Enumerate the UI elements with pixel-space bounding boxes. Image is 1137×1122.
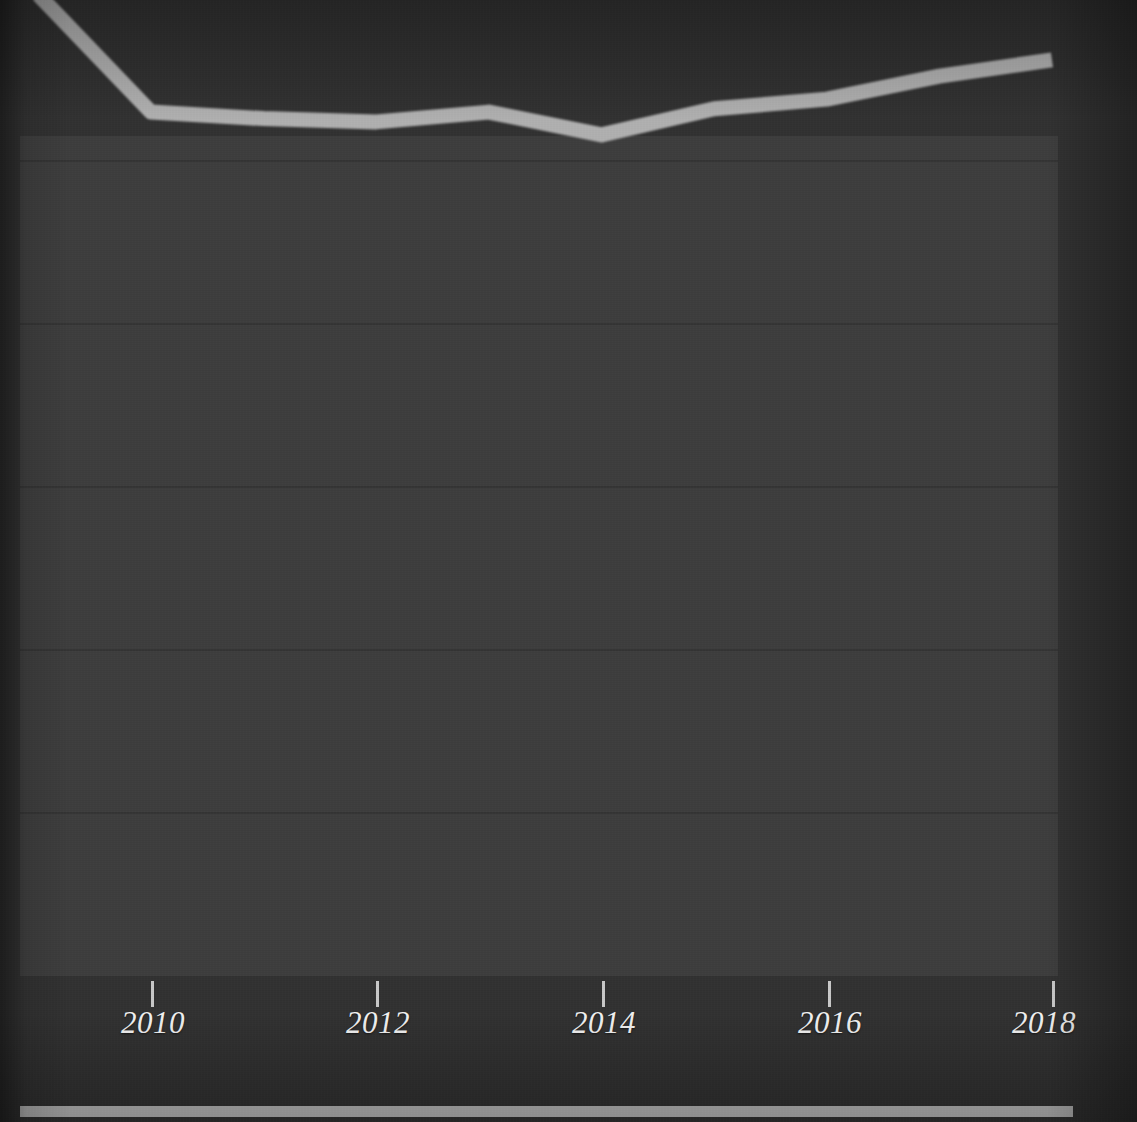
- x-tick-label-2016: 2016: [798, 1005, 862, 1041]
- x-axis-line: [20, 1106, 1073, 1117]
- gridline-2: [20, 323, 1058, 325]
- x-tick-2016: [828, 981, 831, 1007]
- gridline-1: [20, 160, 1058, 162]
- x-tick-label-2014: 2014: [572, 1005, 636, 1041]
- x-tick-2012: [376, 981, 379, 1007]
- gridline-3: [20, 486, 1058, 488]
- gridline-5: [20, 812, 1058, 814]
- gridline-4: [20, 649, 1058, 651]
- line-chart: 2010 2012 2014 2016 2018: [0, 0, 1137, 1122]
- x-tick-label-2018: 2018: [1012, 1005, 1076, 1041]
- x-tick-2014: [602, 981, 605, 1007]
- plot-area: [20, 136, 1058, 976]
- x-tick-label-2010: 2010: [121, 1005, 185, 1041]
- x-tick-label-2012: 2012: [346, 1005, 410, 1041]
- series-1-line: [38, 0, 1052, 135]
- x-tick-2018: [1052, 981, 1055, 1007]
- x-tick-2010: [151, 981, 154, 1007]
